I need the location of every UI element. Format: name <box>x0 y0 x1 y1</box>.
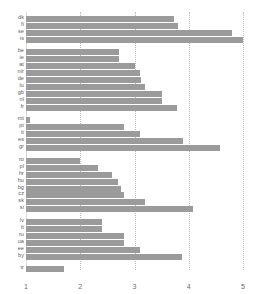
bar <box>26 254 182 260</box>
bar-row: ro <box>0 158 262 164</box>
bar-row: nir <box>0 70 262 76</box>
bar-category-label: is <box>2 35 24 41</box>
bar-row: lt <box>0 226 262 232</box>
bar <box>26 98 162 104</box>
bar <box>26 233 124 239</box>
bar <box>26 138 183 144</box>
bar-category-label: se <box>2 28 24 34</box>
x-tick-label: 2 <box>78 283 82 290</box>
bar-row: hr <box>0 172 262 178</box>
bar-category-label: ro <box>2 156 24 162</box>
bar-category-label: nir <box>2 68 24 74</box>
bar-category-label: ua <box>2 238 24 244</box>
bar <box>26 84 145 90</box>
bar-row: pt <box>0 124 262 130</box>
bar-row: gr <box>0 145 262 151</box>
bar <box>26 219 102 225</box>
bar <box>26 192 124 198</box>
bar-category-label: by <box>2 252 24 258</box>
bar <box>26 49 119 55</box>
x-tick-label: 4 <box>187 283 191 290</box>
bar-row: fi <box>0 23 262 29</box>
x-tick-label: 3 <box>133 283 137 290</box>
bar-category-label: dk <box>2 14 24 20</box>
bar <box>26 206 193 212</box>
bar <box>26 70 140 76</box>
x-tick-label: 5 <box>241 283 245 290</box>
bar-category-label: lu <box>2 82 24 88</box>
bar-category-label: hu <box>2 177 24 183</box>
bar-row: lv <box>0 219 262 225</box>
bar-row: ua <box>0 240 262 246</box>
bar-row: it <box>0 131 262 137</box>
bar-row: bg <box>0 186 262 192</box>
bar-category-label: mt <box>2 115 24 121</box>
bar <box>26 266 64 272</box>
bar-row: lu <box>0 84 262 90</box>
bar-row: se <box>0 30 262 36</box>
bar-category-label: pl <box>2 163 24 169</box>
bar-category-label: lt <box>2 224 24 230</box>
horizontal-bar-chart: dkfiseisbeieatnirdelugbnlfrmtptitesgrrop… <box>0 0 262 294</box>
bar <box>26 145 220 151</box>
bar-category-label: ie <box>2 54 24 60</box>
bar-category-label: be <box>2 47 24 53</box>
bar-row: gb <box>0 91 262 97</box>
bar-row: by <box>0 254 262 260</box>
bar-row: is <box>0 37 262 43</box>
bar-row: dk <box>0 16 262 22</box>
bar <box>26 172 112 178</box>
bar-category-label: sk <box>2 197 24 203</box>
bar <box>26 77 141 83</box>
bar-row: si <box>0 206 262 212</box>
bar-category-label: gb <box>2 89 24 95</box>
bar-category-label: ru <box>2 231 24 237</box>
bar-category-label: at <box>2 61 24 67</box>
bar-row: ie <box>0 56 262 62</box>
bar-category-label: ee <box>2 245 24 251</box>
bar <box>26 158 80 164</box>
bar <box>26 37 243 43</box>
bar <box>26 16 174 22</box>
bar-category-label: hr <box>2 170 24 176</box>
bar <box>26 63 135 69</box>
bar-category-label: de <box>2 75 24 81</box>
bar-row: cz <box>0 192 262 198</box>
bar-row: sk <box>0 199 262 205</box>
bar <box>26 105 177 111</box>
bar <box>26 226 102 232</box>
bar-category-label: it <box>2 129 24 135</box>
bar <box>26 124 124 130</box>
bar <box>26 179 118 185</box>
bar-category-label: es <box>2 136 24 142</box>
bar-category-label: gr <box>2 143 24 149</box>
bar <box>26 240 124 246</box>
bar <box>26 30 232 36</box>
bar-category-label: nl <box>2 96 24 102</box>
bar-row: es <box>0 138 262 144</box>
bar-row: mt <box>0 117 262 123</box>
x-axis <box>26 270 243 271</box>
bar-row: nl <box>0 98 262 104</box>
bar-category-label: fi <box>2 21 24 27</box>
bar <box>26 117 30 123</box>
bar-row: fr <box>0 105 262 111</box>
bar <box>26 56 119 62</box>
plot-area: dkfiseisbeieatnirdelugbnlfrmtptitesgrrop… <box>0 0 262 294</box>
bar <box>26 91 162 97</box>
bar-row: ee <box>0 247 262 253</box>
bar-row: be <box>0 49 262 55</box>
x-tick-label: 1 <box>24 283 28 290</box>
bar <box>26 165 98 171</box>
bar-category-label: fr <box>2 103 24 109</box>
bar-category-label: si <box>2 204 24 210</box>
bar-category-label: lv <box>2 217 24 223</box>
bar-category-label: cz <box>2 190 24 196</box>
bar-row: de <box>0 77 262 83</box>
bar-row: hu <box>0 179 262 185</box>
bar <box>26 186 121 192</box>
bar-category-label: pt <box>2 122 24 128</box>
bar <box>26 199 145 205</box>
bar-category-label: bg <box>2 184 24 190</box>
bar <box>26 131 140 137</box>
